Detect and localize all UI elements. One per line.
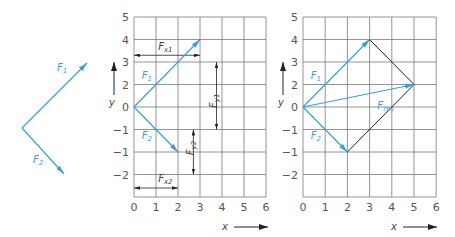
vector-label: F2 bbox=[311, 130, 322, 143]
y-axis-label: y bbox=[277, 97, 285, 108]
y-tick-label: 2 bbox=[291, 79, 298, 92]
vector-label: Fx2 bbox=[158, 173, 173, 186]
x-tick-label: 1 bbox=[322, 201, 329, 214]
vector-label: F2 bbox=[142, 130, 153, 143]
panel-resultant: 012345654320−1−1−2yxF1F2Fres bbox=[277, 11, 440, 232]
panel-components: 012345654320−1−1−2yxFx1Fy1Fy2Fx2F1F2 bbox=[108, 11, 270, 232]
dimension-x1: Fx1 bbox=[134, 41, 200, 56]
x-tick-label: 2 bbox=[344, 201, 351, 214]
free-vector-sketch: F1F2 bbox=[22, 62, 87, 174]
grid bbox=[303, 17, 436, 197]
y-tick-label: 0 bbox=[122, 101, 129, 114]
vector-label: Fy2 bbox=[185, 140, 198, 155]
y-tick-label: −1 bbox=[282, 146, 298, 159]
vector-label: Fy1 bbox=[208, 94, 221, 108]
x-tick-label: 4 bbox=[388, 201, 395, 214]
vector-label: F1 bbox=[142, 70, 152, 83]
y-axis-label: y bbox=[108, 97, 116, 108]
y-tick-label: 5 bbox=[291, 11, 298, 24]
x-tick-label: 5 bbox=[241, 201, 248, 214]
x-tick-label: 5 bbox=[411, 201, 418, 214]
x-axis-label: x bbox=[390, 221, 397, 232]
force-vector-2 bbox=[22, 128, 64, 174]
vector-label: F1 bbox=[311, 70, 321, 83]
force-vector-res bbox=[303, 85, 414, 108]
x-tick-label: 3 bbox=[197, 201, 204, 214]
x-axis-label: x bbox=[221, 221, 228, 232]
y-tick-label: 4 bbox=[122, 34, 129, 47]
y-tick-label: 2 bbox=[122, 79, 129, 92]
vector-label: Fx1 bbox=[158, 41, 172, 54]
x-tick-label: 3 bbox=[366, 201, 373, 214]
vector-label: F1 bbox=[57, 62, 67, 75]
y-tick-label: −1 bbox=[282, 124, 298, 137]
parallelogram-line bbox=[347, 85, 414, 153]
vector-label: F2 bbox=[33, 154, 44, 167]
y-tick-label: 4 bbox=[291, 34, 298, 47]
y-tick-label: −2 bbox=[282, 169, 298, 182]
x-tick-label: 4 bbox=[219, 201, 226, 214]
y-tick-label: 3 bbox=[122, 56, 129, 69]
vector-addition-figure: F1F2012345654320−1−1−2yxFx1Fy1Fy2Fx2F1F2… bbox=[0, 0, 455, 237]
x-tick-label: 6 bbox=[263, 201, 270, 214]
y-tick-label: −1 bbox=[113, 124, 129, 137]
y-tick-label: 5 bbox=[122, 11, 129, 24]
y-tick-label: −2 bbox=[113, 169, 129, 182]
x-tick-label: 0 bbox=[300, 201, 307, 214]
y-tick-label: −1 bbox=[113, 146, 129, 159]
x-tick-label: 6 bbox=[433, 201, 440, 214]
dimension-y1: Fy1 bbox=[208, 62, 221, 130]
y-tick-label: 0 bbox=[291, 101, 298, 114]
grid bbox=[134, 17, 266, 197]
x-tick-label: 2 bbox=[175, 201, 182, 214]
force-vector-1 bbox=[22, 63, 87, 128]
vector-diagram-canvas: F1F2012345654320−1−1−2yxFx1Fy1Fy2Fx2F1F2… bbox=[0, 0, 455, 237]
x-tick-label: 1 bbox=[153, 201, 160, 214]
x-tick-label: 0 bbox=[131, 201, 138, 214]
y-tick-label: 3 bbox=[291, 56, 298, 69]
